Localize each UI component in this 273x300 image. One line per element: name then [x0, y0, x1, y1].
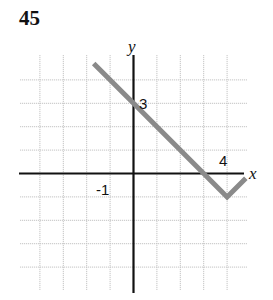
tick-label-4: 4 — [219, 152, 227, 169]
y-axis-label: y — [126, 37, 136, 56]
x-axis-label: x — [248, 164, 257, 183]
function-graph — [94, 64, 246, 197]
tick-label-neg1: -1 — [96, 181, 109, 198]
tick-label-3: 3 — [139, 95, 147, 112]
coordinate-plane: y x 3 4 -1 — [0, 0, 273, 300]
